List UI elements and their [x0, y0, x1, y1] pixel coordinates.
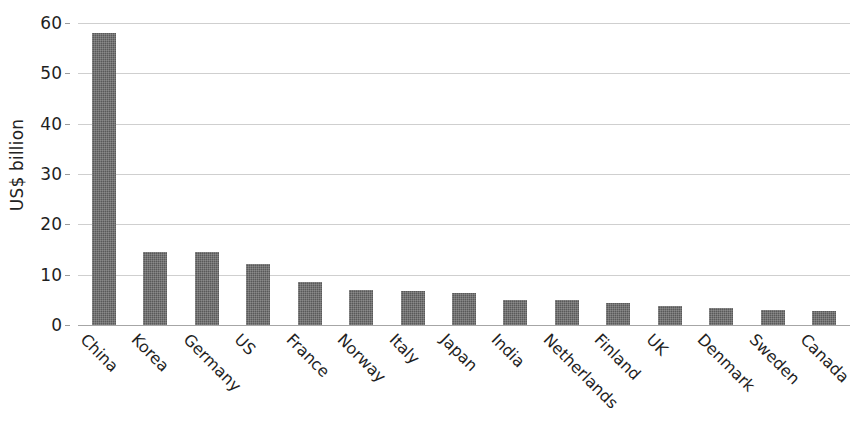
bar [709, 308, 733, 325]
y-axis-tick-mark [65, 124, 70, 125]
bar [503, 300, 527, 325]
bar [761, 310, 785, 325]
y-axis-tick-mark [65, 275, 70, 276]
bar-chart: US$ billion 0102030405060 ChinaKoreaGerm… [0, 0, 858, 437]
y-axis-tick-label: 10 [0, 265, 62, 285]
x-axis-tick-label: US [231, 330, 260, 359]
bar [298, 282, 322, 325]
y-axis-tick-mark [65, 23, 70, 24]
bar [349, 290, 373, 325]
x-axis-tick-label: Italy [385, 330, 423, 368]
bar [195, 252, 219, 325]
y-axis-tick-label: 20 [0, 214, 62, 234]
y-axis-tick-label: 60 [0, 13, 62, 33]
x-axis-tick-label: France [282, 330, 333, 381]
bar [401, 291, 425, 325]
x-axis-tick-labels: ChinaKoreaGermanyUSFranceNorwayItalyJapa… [78, 330, 850, 435]
bar [452, 293, 476, 325]
bar [812, 311, 836, 325]
y-axis-tick-mark [65, 224, 70, 225]
x-axis-tick-label: Canada [797, 330, 853, 386]
y-axis-tick-mark [65, 73, 70, 74]
x-axis-tick-label: UK [642, 330, 671, 359]
bar [658, 306, 682, 325]
y-axis-tick-label: 0 [0, 315, 62, 335]
y-axis-tick-mark [65, 174, 70, 175]
bar [143, 252, 167, 325]
y-axis-tick-label: 40 [0, 114, 62, 134]
bar [555, 300, 579, 325]
bar [92, 33, 116, 325]
bar-series [78, 23, 850, 325]
x-axis-tick-label: Korea [128, 330, 174, 376]
bar [606, 303, 630, 325]
y-axis-tick-mark [65, 325, 70, 326]
x-axis-tick-label: China [76, 330, 122, 376]
x-axis-tick-label: Japan [437, 330, 482, 375]
y-axis-tick-labels: 0102030405060 [0, 23, 70, 325]
bar [246, 264, 270, 325]
y-axis-tick-label: 50 [0, 63, 62, 83]
x-axis-line [78, 325, 850, 326]
x-axis-tick-label: Norway [334, 330, 390, 386]
x-axis-tick-label: India [488, 330, 529, 371]
y-axis-tick-label: 30 [0, 164, 62, 184]
